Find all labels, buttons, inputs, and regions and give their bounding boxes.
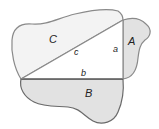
pythagorean-diagram: C A B c a b: [0, 0, 159, 129]
label-region-a: A: [127, 35, 135, 47]
label-side-a: a: [113, 44, 118, 54]
label-region-b: B: [85, 87, 92, 99]
label-side-b: b: [81, 68, 86, 78]
label-side-c: c: [74, 47, 79, 57]
region-a: [123, 18, 150, 79]
region-b: [21, 79, 124, 123]
label-region-c: C: [49, 33, 57, 45]
